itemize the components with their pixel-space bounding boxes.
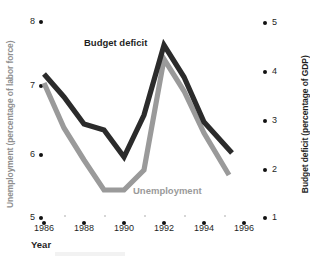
series-annotation-budget-deficit: Budget deficit [84,38,147,48]
series-line-unemployment [44,59,229,190]
series-annotation-unemployment: Unemployment [133,186,202,196]
scan-edge-artifact [55,252,125,256]
plot-area [0,0,310,266]
dual-axis-line-chart: Unemployment (percentage of labor force)… [0,0,310,266]
